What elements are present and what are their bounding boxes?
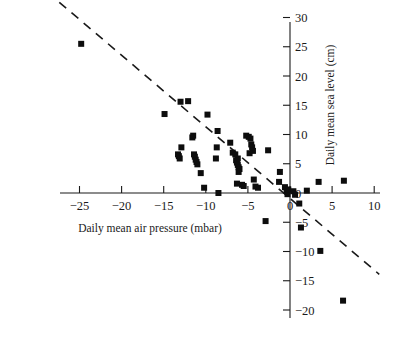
scatter-plot-figure: −25−20−15−10−50510 302520151050−5−10−15−… <box>0 0 400 344</box>
x-tick-label: −15 <box>154 199 174 213</box>
data-point <box>191 151 197 157</box>
data-point <box>185 98 191 104</box>
plot-canvas: −25−20−15−10−50510 302520151050−5−10−15−… <box>0 0 400 344</box>
data-point <box>317 248 323 254</box>
x-tick-label: −10 <box>196 199 216 213</box>
data-point <box>255 185 261 191</box>
data-point <box>247 136 253 142</box>
data-point <box>213 155 219 161</box>
y-tick-label: −20 <box>295 304 315 318</box>
y-tick-label: 30 <box>295 11 308 25</box>
data-point <box>316 179 322 185</box>
data-point <box>78 41 84 47</box>
data-point <box>178 144 184 150</box>
data-point <box>247 150 253 156</box>
x-tick-label: 5 <box>329 199 335 213</box>
data-point <box>190 133 196 139</box>
data-point <box>263 218 269 224</box>
data-point <box>292 192 298 198</box>
data-point <box>276 179 282 185</box>
x-tick-label: −25 <box>70 199 90 213</box>
x-tick-label: 10 <box>368 199 381 213</box>
y-tick-label: 10 <box>295 128 308 142</box>
data-point <box>304 188 310 194</box>
data-point <box>265 147 271 153</box>
y-tick-label: −15 <box>295 274 315 288</box>
data-point <box>194 161 200 167</box>
data-point <box>214 144 220 150</box>
x-axis-title: Daily mean air pressure (mbar) <box>78 222 222 235</box>
data-point <box>296 201 302 207</box>
data-point <box>251 177 257 183</box>
data-point <box>341 178 347 184</box>
data-point <box>215 128 221 134</box>
data-point <box>215 190 221 196</box>
y-tick-label: −10 <box>295 245 315 259</box>
data-point <box>232 151 238 157</box>
y-tick-label: 20 <box>295 70 308 84</box>
data-point <box>277 169 283 175</box>
y-tick-label: 5 <box>295 157 301 171</box>
data-point <box>298 225 304 231</box>
data-point <box>227 140 233 146</box>
data-point <box>162 111 168 117</box>
y-axis-title: Daily mean sea level (cm) <box>324 44 337 165</box>
data-point <box>198 170 204 176</box>
y-tick-label: 15 <box>295 99 308 113</box>
data-point <box>236 169 242 175</box>
data-point <box>204 112 210 118</box>
data-point <box>201 185 207 191</box>
x-tick-group: −25−20−15−10−50510 <box>70 186 381 213</box>
x-tick-label: −5 <box>241 199 254 213</box>
y-tick-label: 25 <box>295 40 308 54</box>
data-point <box>178 99 184 105</box>
data-point <box>241 183 247 189</box>
data-point <box>175 151 181 157</box>
data-point <box>340 298 346 304</box>
x-tick-label: −20 <box>112 199 132 213</box>
y-tick-group: 302520151050−5−10−15−20 <box>283 11 315 318</box>
